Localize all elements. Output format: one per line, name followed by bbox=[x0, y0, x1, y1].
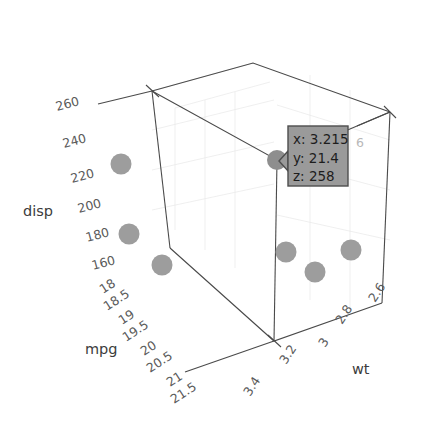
tooltip-z-value: z: 258 bbox=[293, 168, 335, 184]
z-tick-label: 240 bbox=[61, 130, 88, 151]
x-axis-tick-labels: 3.4 3.2 3 2.8 2.6 bbox=[240, 280, 388, 399]
data-point[interactable] bbox=[276, 242, 297, 263]
y-axis-line bbox=[185, 341, 274, 372]
axis-box-top-front bbox=[152, 91, 390, 160]
z-axis-tick-labels: 260 240 220 200 180 160 bbox=[54, 93, 117, 273]
z-axis-line bbox=[98, 91, 152, 104]
z-axis-title: disp bbox=[23, 203, 53, 219]
data-point[interactable] bbox=[341, 240, 362, 261]
z-tick-label: 260 bbox=[54, 93, 81, 114]
grid-lines bbox=[152, 63, 390, 312]
x-tick-label: 3 bbox=[315, 335, 332, 350]
data-point[interactable] bbox=[152, 255, 173, 276]
tooltip-y-value: y: 21.4 bbox=[293, 150, 339, 166]
hover-tooltip: x: 3.215 y: 21.4 z: 258 bbox=[279, 126, 348, 186]
x-tick-label: 2.6 bbox=[365, 280, 388, 305]
data-point[interactable] bbox=[111, 154, 132, 175]
y-axis-title: mpg bbox=[85, 341, 118, 357]
grid-line bbox=[152, 100, 274, 130]
z-tick-label: 220 bbox=[69, 165, 96, 186]
z-tick-label: 160 bbox=[90, 252, 117, 273]
grid-line bbox=[152, 184, 274, 210]
data-point[interactable] bbox=[119, 224, 140, 245]
grid-line bbox=[175, 82, 270, 108]
x-axis-stub bbox=[357, 112, 390, 126]
axis-box-edge-right bbox=[382, 112, 390, 303]
z-tick-label: 180 bbox=[84, 224, 111, 245]
occluded-tick-label: 6 bbox=[356, 135, 364, 150]
z-tick-label: 200 bbox=[76, 195, 103, 216]
x-axis-title: wt bbox=[352, 361, 370, 377]
x-tick-label: 3.4 bbox=[240, 374, 263, 399]
grid-line bbox=[277, 215, 390, 240]
scatter3d-plot: 260 240 220 200 180 160 disp 18 18.5 19 … bbox=[0, 0, 425, 426]
grid-line bbox=[152, 142, 274, 170]
x-tick-label: 2.8 bbox=[332, 302, 355, 327]
data-point[interactable] bbox=[305, 262, 326, 283]
tooltip-x-value: x: 3.215 bbox=[293, 131, 348, 147]
